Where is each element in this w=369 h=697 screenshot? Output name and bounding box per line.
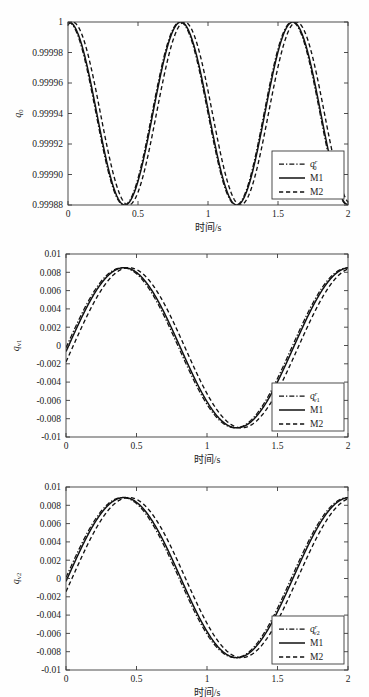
y-tick-label: -0.006 <box>36 628 61 638</box>
y-tick-label: 0.008 <box>40 500 62 510</box>
x-tick-label: 1 <box>205 674 210 684</box>
y-axis-label: qv2 <box>10 572 22 584</box>
y-tick-label: 0.002 <box>40 555 62 565</box>
x-tick-label: 0.5 <box>131 674 143 684</box>
y-tick-label: 0.004 <box>40 305 62 315</box>
x-tick-label: 0 <box>64 674 69 684</box>
chart-svg-qv2: 00.511.52-0.01-0.008-0.006-0.004-0.00200… <box>0 465 369 697</box>
x-tick-label: 2 <box>346 441 351 451</box>
y-tick-label: 0.99996 <box>32 78 63 88</box>
y-tick-label: 0.99998 <box>32 48 63 58</box>
legend-label-M2: M2 <box>310 652 323 662</box>
y-tick-label: -0.002 <box>36 592 61 602</box>
y-tick-label: 1 <box>58 17 63 27</box>
chart-svg-q0: 00.511.520.999880.999900.999920.999940.9… <box>0 0 369 232</box>
y-tick-label: 0 <box>56 573 61 583</box>
legend: qrv2M1M2 <box>272 616 344 664</box>
legend-label-M2: M2 <box>310 420 323 430</box>
legend: qr0M1M2 <box>272 151 344 199</box>
figure-quaternion-tracking: 00.511.520.999880.999900.999920.999940.9… <box>0 0 369 697</box>
y-axis-label: qv1 <box>10 340 22 352</box>
y-tick-label: -0.006 <box>36 396 61 406</box>
x-tick-label: 0.5 <box>132 209 144 219</box>
legend-label-M1: M1 <box>310 638 323 648</box>
y-tick-label: -0.008 <box>36 414 61 424</box>
x-tick-label: 1.5 <box>272 674 284 684</box>
x-tick-label: 1 <box>205 441 210 451</box>
y-tick-label: 0.99992 <box>32 139 63 149</box>
y-tick-label: 0.002 <box>40 323 62 333</box>
x-axis-label: 时间/s <box>194 686 221 697</box>
y-tick-label: 0.99990 <box>32 170 63 180</box>
y-tick-label: 0.004 <box>40 537 62 547</box>
x-tick-label: 2 <box>346 209 351 219</box>
y-tick-label: 0.99988 <box>32 200 63 210</box>
y-axis-label: q0 <box>12 109 24 118</box>
y-tick-label: 0.006 <box>40 286 62 296</box>
y-tick-label: -0.01 <box>41 665 61 675</box>
y-tick-label: 0 <box>56 341 61 351</box>
legend: qrv1M1M2 <box>272 383 344 431</box>
chart-svg-qv1: 00.511.52-0.01-0.008-0.006-0.004-0.00200… <box>0 232 369 464</box>
x-tick-label: 0 <box>64 441 69 451</box>
legend-label-M1: M1 <box>310 173 323 183</box>
x-tick-label: 1.5 <box>272 209 284 219</box>
chart-panel-q0: 00.511.520.999880.999900.999920.999940.9… <box>0 0 369 232</box>
y-tick-label: 0.99994 <box>32 109 63 119</box>
y-tick-label: -0.004 <box>36 610 61 620</box>
y-tick-label: -0.004 <box>36 378 61 388</box>
y-tick-label: -0.008 <box>36 647 61 657</box>
legend-label-M1: M1 <box>310 406 323 416</box>
x-tick-label: 2 <box>346 674 351 684</box>
y-tick-label: 0.01 <box>44 250 61 260</box>
y-tick-label: -0.01 <box>41 433 61 443</box>
chart-panel-qv2: 00.511.52-0.01-0.008-0.006-0.004-0.00200… <box>0 465 369 697</box>
y-tick-label: -0.002 <box>36 359 61 369</box>
x-axis-label: 时间/s <box>195 221 222 232</box>
x-tick-label: 0 <box>66 209 71 219</box>
y-tick-label: 0.006 <box>40 519 62 529</box>
x-tick-label: 0.5 <box>131 441 143 451</box>
x-axis-label: 时间/s <box>194 453 221 464</box>
x-tick-label: 1.5 <box>272 441 284 451</box>
legend-label-M2: M2 <box>310 187 323 197</box>
x-tick-label: 1 <box>206 209 211 219</box>
y-tick-label: 0.01 <box>44 482 61 492</box>
y-tick-label: 0.008 <box>40 268 62 278</box>
chart-panel-qv1: 00.511.52-0.01-0.008-0.006-0.004-0.00200… <box>0 232 369 464</box>
